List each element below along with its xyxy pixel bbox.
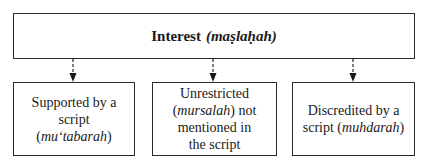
node-line: script (muhdarah) <box>303 119 405 136</box>
node-line: Unrestricted <box>173 85 257 102</box>
arabic-term: mursalah <box>177 103 230 118</box>
arabic-term: muhdarah <box>342 120 400 135</box>
root-title: Interest <box>151 28 201 45</box>
node-line: mentioned in <box>173 119 257 136</box>
node-line: the script <box>173 136 257 153</box>
arabic-term: mu‘tabarah <box>41 129 107 144</box>
node-discredited: Discredited by a script (muhdarah) <box>292 82 415 156</box>
arrowhead-icon <box>350 73 357 82</box>
root-node-interest: Interest (maṣlaḥah) <box>13 13 415 59</box>
node-line: Supported by a <box>20 94 128 111</box>
node-supported: Supported by a script (mu‘tabarah) <box>13 82 135 156</box>
node-line: Discredited by a <box>303 102 405 119</box>
node-line: (mursalah) not <box>173 102 257 119</box>
arrowhead-icon <box>70 73 77 82</box>
arrowhead-icon <box>210 73 217 82</box>
node-line: script (mu‘tabarah) <box>20 111 128 145</box>
node-unrestricted: Unrestricted (mursalah) not mentioned in… <box>152 82 277 156</box>
root-term: (maṣlaḥah) <box>206 28 277 45</box>
